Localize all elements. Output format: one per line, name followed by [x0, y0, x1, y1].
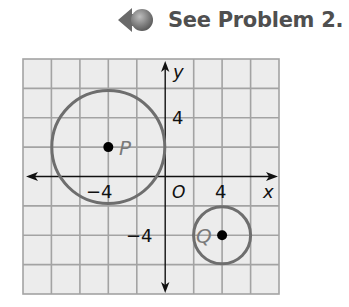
- x-tick-neg4: −4: [86, 181, 113, 202]
- x-tick-4: 4: [215, 181, 226, 202]
- label-q: Q: [196, 224, 212, 248]
- label-p: P: [119, 136, 132, 160]
- y-axis-label: y: [172, 61, 184, 82]
- center-point-q: [217, 230, 227, 240]
- center-point-p: [103, 142, 113, 152]
- y-tick-4: 4: [172, 107, 183, 128]
- y-tick-neg4: −4: [126, 225, 153, 246]
- origin-label: O: [172, 182, 185, 202]
- coordinate-graph: P Q y x O 4 −4 4 −4: [0, 0, 349, 307]
- x-axis-label: x: [262, 181, 274, 202]
